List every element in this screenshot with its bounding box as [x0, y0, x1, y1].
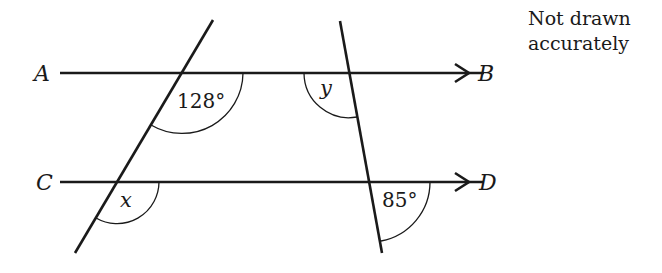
note-line-1: Not drawn: [528, 6, 631, 31]
not-drawn-accurately-note: Not drawn accurately: [528, 6, 631, 56]
label-d: D: [478, 170, 497, 195]
note-line-2: accurately: [528, 31, 631, 56]
right-transversal: [340, 21, 382, 253]
angle-label-y: y: [319, 76, 333, 100]
label-a: A: [32, 61, 50, 86]
label-b: B: [477, 61, 494, 86]
left-transversal: [75, 20, 213, 253]
angle-label-x: x: [120, 188, 132, 212]
angle-label-128: 128°: [177, 89, 225, 113]
label-c: C: [36, 170, 53, 195]
angle-label-85: 85°: [382, 188, 417, 212]
